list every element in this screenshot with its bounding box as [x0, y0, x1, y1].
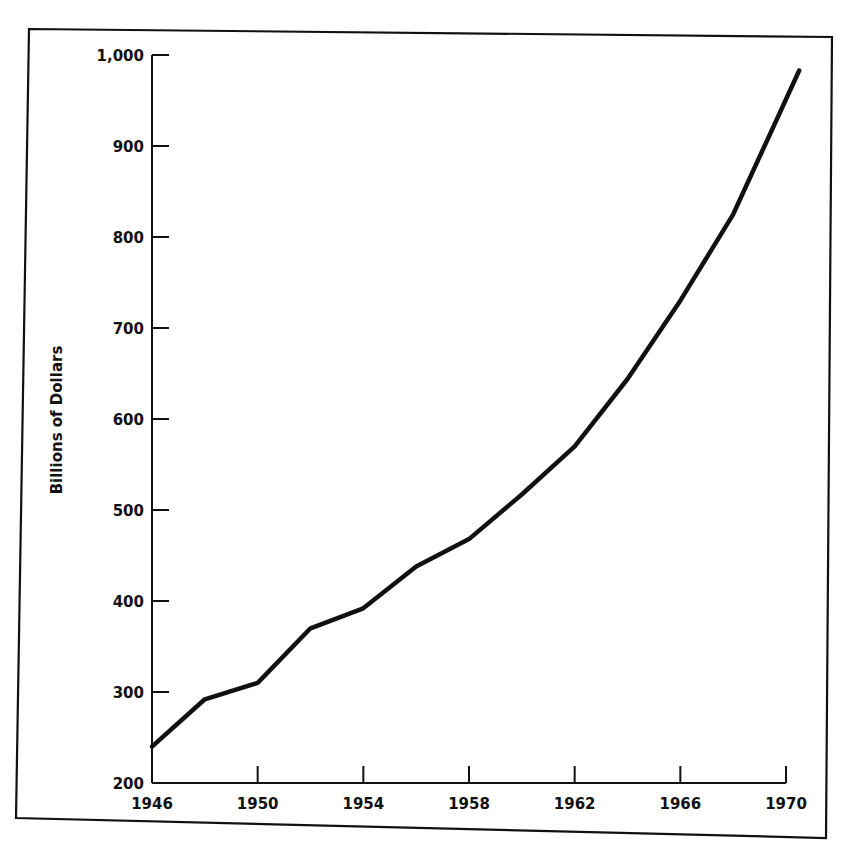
y-axis-title: Billions of Dollars — [48, 346, 66, 495]
axes — [152, 55, 786, 783]
y-tick-label: 800 — [113, 229, 144, 247]
y-tick-label: 500 — [113, 502, 144, 520]
x-tick-label: 1958 — [448, 795, 490, 813]
x-tick-label: 1954 — [342, 795, 384, 813]
y-tick-label: 200 — [113, 775, 144, 793]
data-line — [152, 71, 799, 747]
y-tick-label: 400 — [113, 593, 144, 611]
line-chart: 2003004005006007008009001,000 1946195019… — [0, 0, 844, 844]
y-tick-label: 600 — [113, 411, 144, 429]
x-axis-ticks: 1946195019541958196219661970 — [131, 766, 807, 813]
x-tick-label: 1946 — [131, 795, 173, 813]
x-tick-label: 1950 — [237, 795, 279, 813]
chart-frame: 2003004005006007008009001,000 1946195019… — [0, 0, 844, 844]
x-tick-label: 1962 — [554, 795, 596, 813]
y-tick-label: 900 — [113, 138, 144, 156]
y-tick-label: 1,000 — [97, 47, 144, 65]
y-tick-label: 700 — [113, 320, 144, 338]
x-tick-label: 1970 — [765, 795, 807, 813]
x-tick-label: 1966 — [659, 795, 701, 813]
y-axis-ticks: 2003004005006007008009001,000 — [97, 47, 169, 793]
y-tick-label: 300 — [113, 684, 144, 702]
